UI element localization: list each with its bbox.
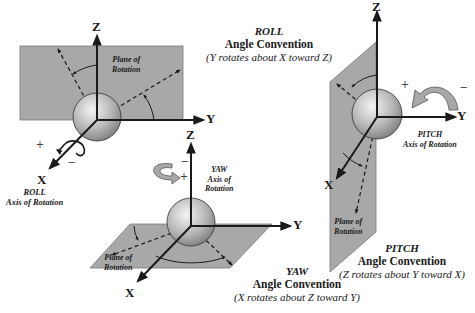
roll-minus-sign: − bbox=[68, 155, 76, 171]
yaw-x-label: X bbox=[125, 286, 134, 301]
pitch-z-label: Z bbox=[372, 0, 381, 15]
yaw-subtitle: Angle Convention bbox=[224, 278, 370, 291]
roll-plus-sign: + bbox=[36, 137, 44, 153]
pitch-x-label: X bbox=[324, 178, 333, 193]
yaw-plus-sign: + bbox=[180, 169, 188, 185]
pitch-axis-label: PITCH Axis of Rotation bbox=[403, 130, 457, 149]
roll-axis-label: ROLL Axis of Rotation bbox=[6, 187, 63, 207]
roll-description: (Y rotates about X toward Z) bbox=[196, 51, 342, 64]
yaw-rotation-arrow-icon bbox=[154, 163, 180, 184]
pitch-plus-sign: + bbox=[401, 77, 409, 93]
yaw-y-label: Y bbox=[293, 218, 302, 233]
yaw-convention-caption: YAW Angle Convention (X rotates about Z … bbox=[224, 265, 370, 304]
roll-y-label: Y bbox=[206, 112, 215, 127]
yaw-minus-sign: − bbox=[181, 154, 189, 170]
yaw-title: YAW bbox=[224, 265, 370, 278]
yaw-z-label: Z bbox=[186, 128, 195, 143]
roll-x-label: X bbox=[37, 173, 46, 188]
pitch-minus-sign: − bbox=[460, 80, 468, 96]
pitch-plane-label: Plane of Rotation bbox=[334, 217, 362, 236]
roll-convention-caption: ROLL Angle Convention (Y rotates about X… bbox=[196, 25, 342, 64]
roll-subtitle: Angle Convention bbox=[196, 38, 342, 51]
roll-plane-label: Plane of Rotation bbox=[112, 55, 140, 74]
yaw-plane-label: Plane of Rotation bbox=[104, 253, 132, 272]
roll-title: ROLL bbox=[196, 25, 342, 38]
yaw-axis-label: YAW Axis of Rotation bbox=[205, 165, 233, 194]
yaw-description: (X rotates about Z toward Y) bbox=[224, 291, 370, 304]
pitch-y-label: Y bbox=[457, 109, 466, 124]
pitch-rotation-arrow-icon bbox=[412, 87, 458, 110]
roll-z-label: Z bbox=[92, 20, 101, 35]
